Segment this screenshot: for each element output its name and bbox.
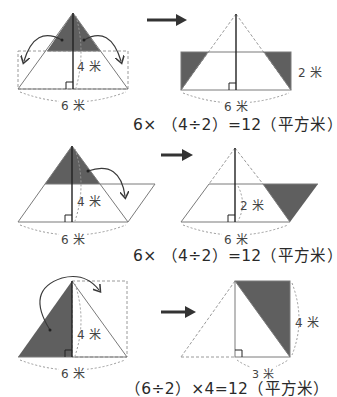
row1-left-height-label: 4 米	[77, 57, 101, 74]
row3-right-side-label: 4 米	[295, 313, 319, 330]
row2-right-height-label: 2 米	[240, 196, 264, 213]
row1-right-side-label: 2 米	[298, 63, 322, 80]
row2-left-height-label: 4 米	[77, 192, 101, 209]
row1-right-figure	[181, 14, 291, 103]
row1-left-figure	[18, 13, 128, 102]
row2-left-figure	[18, 146, 155, 235]
row2-formula: 6× （4÷2）=12（平方米）	[133, 243, 337, 265]
row3-left-figure	[18, 277, 127, 371]
row3-formula: （6÷2）×4=12（平方米）	[125, 376, 330, 397]
row2-right-figure	[181, 148, 318, 235]
row3-left-height-label: 4 米	[77, 325, 101, 342]
row3-right-figure	[181, 281, 299, 369]
transform-arrow-1	[147, 14, 187, 26]
row3-left-base-label: 6 米	[59, 364, 87, 381]
row1-left-base-label: 6 米	[59, 96, 87, 113]
shaded-moved-triangle	[263, 184, 318, 222]
shaded-left-triangle	[18, 281, 72, 357]
transform-arrow-2	[161, 149, 193, 161]
transform-arrow-3	[161, 306, 196, 318]
row2-left-base-label: 6 米	[59, 230, 87, 247]
row1-formula: 6× （4÷2）=12（平方米）	[133, 112, 337, 134]
right-angle-mark	[66, 82, 73, 89]
